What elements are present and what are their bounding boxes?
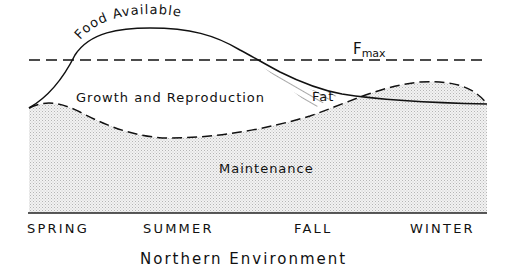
energy-allocation-diagram: Food Available Fmax Growth and Reproduct…	[0, 0, 518, 279]
fat-label: Fat	[312, 89, 334, 104]
season-winter: WINTER	[410, 221, 475, 236]
maintenance-label: Maintenance	[219, 161, 314, 176]
season-spring: SPRING	[27, 221, 89, 236]
season-summer: SUMMER	[143, 221, 214, 236]
season-fall: FALL	[294, 221, 332, 236]
growth-reproduction-label: Growth and Reproduction	[76, 90, 265, 105]
food-available-label: Food Available	[71, 2, 183, 42]
fmax-label: Fmax	[353, 40, 386, 60]
diagram-title: Northern Environment	[140, 250, 347, 268]
